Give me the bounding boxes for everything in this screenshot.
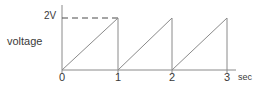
x-tick-label-0: 0 bbox=[59, 71, 65, 83]
x-axis-unit-label: sec bbox=[238, 72, 252, 82]
x-tick-label-3: 3 bbox=[224, 71, 230, 83]
y-axis-label: voltage bbox=[7, 35, 42, 47]
sawtooth-voltage-figure: voltage 2V sec 0 1 2 3 bbox=[0, 0, 253, 91]
y-tick-label-2v: 2V bbox=[44, 10, 56, 21]
x-tick-label-2: 2 bbox=[169, 71, 175, 83]
sawtooth-waveform-trace bbox=[62, 18, 227, 70]
x-tick-label-1: 1 bbox=[115, 71, 121, 83]
